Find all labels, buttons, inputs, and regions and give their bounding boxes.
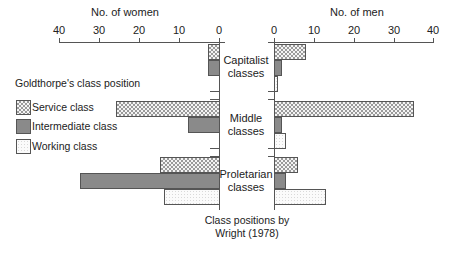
women-tick-30: 30 <box>93 24 105 36</box>
category-axis-title: Class positions by Wright (1978) <box>187 214 307 240</box>
legend-title: Goldthorpe's class position <box>15 77 140 89</box>
category-line: Capitalist <box>211 54 281 67</box>
women-bar-working <box>219 133 220 149</box>
men-bar-service <box>274 157 298 173</box>
men-x-axis <box>268 42 434 43</box>
women-x-axis <box>59 42 225 43</box>
legend-swatch-intermediate <box>16 119 31 134</box>
men-bar-working <box>274 133 286 149</box>
category-line: classes <box>211 125 281 138</box>
women-tickmark <box>59 38 60 42</box>
men-bar-working <box>274 76 278 92</box>
men-bar-intermediate <box>274 60 282 76</box>
men-tick-0: 0 <box>271 24 277 36</box>
category-line: classes <box>211 181 281 194</box>
footer-line: Wright (1978) <box>187 227 307 240</box>
men-tick-30: 30 <box>388 24 400 36</box>
men-axis-title: No. of men <box>330 6 384 18</box>
women-tickmark <box>99 38 100 42</box>
category-capitalist: Capitalist classes <box>211 54 281 80</box>
legend-label-intermediate: Intermediate class <box>32 120 117 132</box>
group-separator <box>268 99 274 100</box>
men-tickmark <box>354 38 355 42</box>
men-bar-service <box>274 101 414 117</box>
legend-swatch-service <box>16 100 31 115</box>
women-tick-40: 40 <box>53 24 65 36</box>
footer-line: Class positions by <box>187 214 307 227</box>
women-bar-service <box>208 44 220 60</box>
women-bar-working <box>219 76 220 92</box>
men-tick-40: 40 <box>427 24 439 36</box>
group-separator <box>210 148 219 149</box>
women-tickmark <box>179 38 180 42</box>
men-bar-working <box>274 189 326 205</box>
category-proletarian: Proletarian classes <box>211 168 281 194</box>
category-line: classes <box>211 67 281 80</box>
women-tickmark <box>139 38 140 42</box>
group-separator <box>210 91 219 92</box>
women-tick-20: 20 <box>133 24 145 36</box>
women-axis-title: No. of women <box>91 6 159 18</box>
women-bar-working <box>164 189 220 205</box>
men-tickmark <box>314 38 315 42</box>
women-bar-service <box>116 101 220 117</box>
women-tick-10: 10 <box>173 24 185 36</box>
legend-label-service: Service class <box>32 101 94 113</box>
men-bar-service <box>274 44 306 60</box>
legend-label-working: Working class <box>32 140 97 152</box>
men-tickmark <box>394 38 395 42</box>
legend-swatch-working <box>16 139 31 154</box>
women-tick-0: 0 <box>216 24 222 36</box>
men-bar-intermediate <box>274 173 286 189</box>
women-bar-intermediate <box>80 173 220 189</box>
women-bar-intermediate <box>188 117 220 133</box>
category-middle: Middle classes <box>211 112 281 138</box>
men-bar-intermediate <box>274 117 282 133</box>
group-separator <box>210 99 219 100</box>
men-tick-10: 10 <box>308 24 320 36</box>
men-tickmark <box>433 38 434 42</box>
category-line: Middle <box>211 112 281 125</box>
women-bar-intermediate <box>208 60 220 76</box>
women-bar-service <box>160 157 220 173</box>
category-line: Proletarian <box>211 168 281 181</box>
men-tick-20: 20 <box>348 24 360 36</box>
